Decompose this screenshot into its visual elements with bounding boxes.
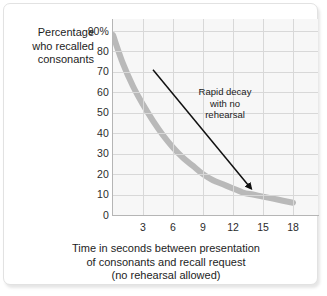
x-tick-9: 9 <box>190 221 216 233</box>
y-tick-40: 40 <box>69 128 109 139</box>
annotation-line-2: with no <box>183 98 267 110</box>
annotation-line-3: rehearsal <box>183 109 267 121</box>
x-axis-caption-line-2: of consonants and recall request <box>30 256 302 270</box>
x-tick-3: 3 <box>130 221 156 233</box>
y-tick-70: 70 <box>69 66 109 77</box>
x-tick-12: 12 <box>220 221 246 233</box>
gridline-v-3 <box>143 19 144 215</box>
x-axis-line <box>113 215 319 216</box>
x-axis-caption-line-3: (no rehearsal allowed) <box>30 269 302 283</box>
x-axis-caption: Time in seconds between presentation of … <box>30 242 302 283</box>
y-tick-90: 90% <box>69 26 109 37</box>
annotation-line-1: Rapid decay <box>183 86 267 98</box>
y-tick-50: 50 <box>69 107 109 118</box>
x-axis-caption-line-1: Time in seconds between presentation <box>30 242 302 256</box>
y-axis-line <box>112 19 113 216</box>
y-tick-0: 0 <box>69 210 109 221</box>
gridline-v-18 <box>293 19 294 215</box>
gridline-v-6 <box>173 19 174 215</box>
y-tick-80: 80 <box>69 46 109 57</box>
x-tick-6: 6 <box>160 221 186 233</box>
figure-container: Percentage who recalled consonants 90% 8… <box>0 0 327 296</box>
x-tick-18: 18 <box>280 221 306 233</box>
annotation-rapid-decay: Rapid decay with no rehearsal <box>183 86 267 121</box>
y-tick-60: 60 <box>69 87 109 98</box>
x-tick-15: 15 <box>250 221 276 233</box>
y-tick-10: 10 <box>69 189 109 200</box>
y-tick-20: 20 <box>69 169 109 180</box>
y-tick-30: 30 <box>69 148 109 159</box>
